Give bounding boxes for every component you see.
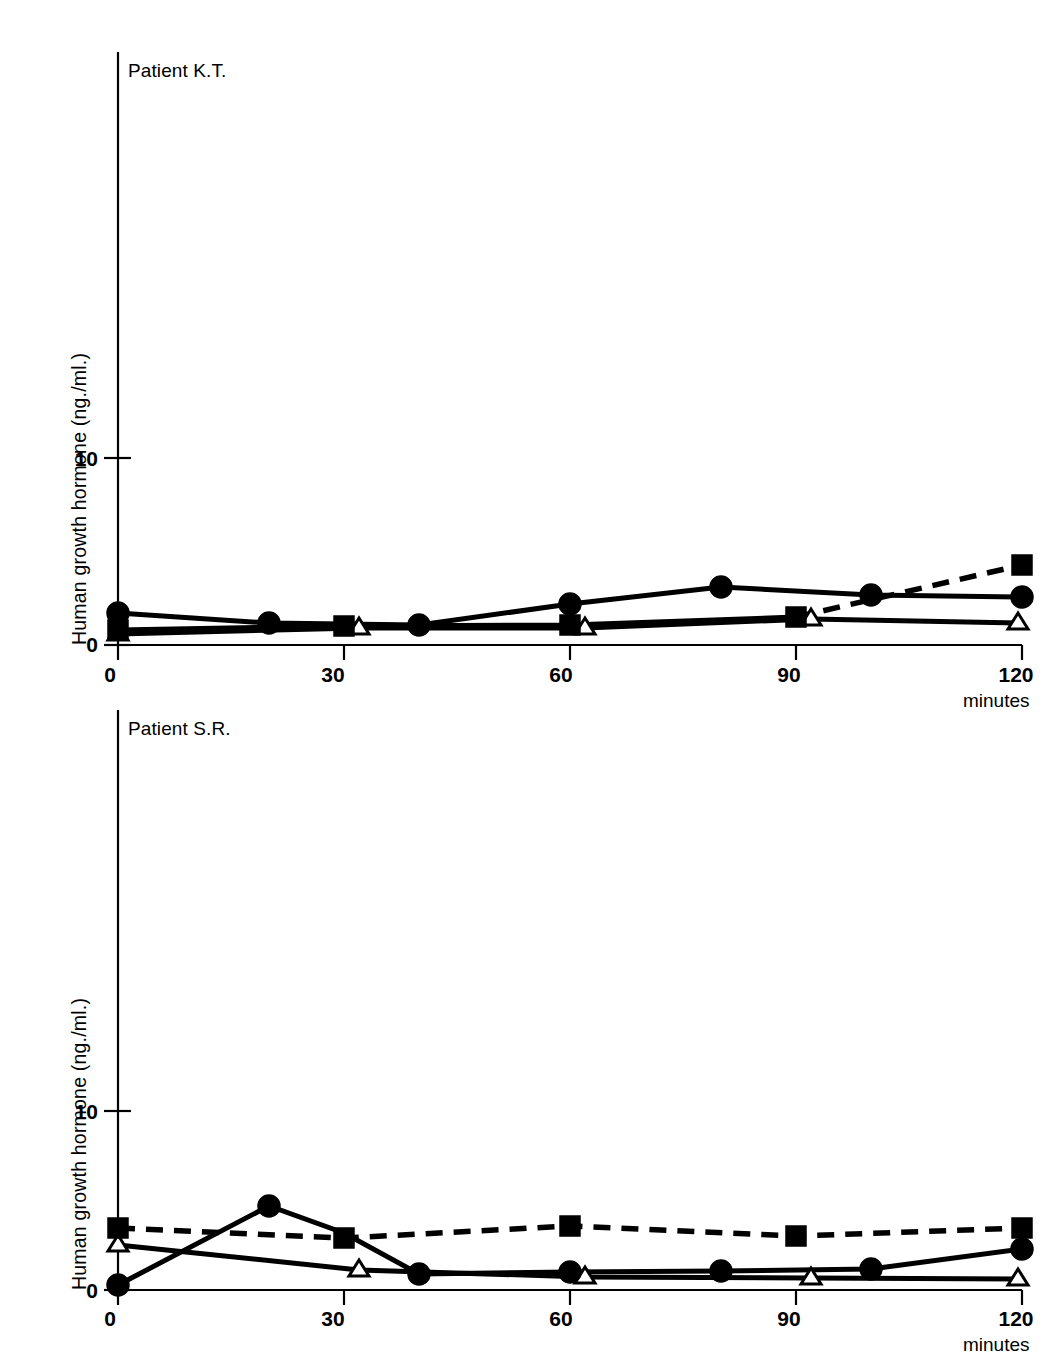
chart-panel-sr: Patient S.R. Human growth hormone (ng./m… [0, 670, 1047, 1348]
plot-area-sr [0, 670, 1047, 1348]
chart-panel-kt: Patient K.T. Human growth hormone (ng./m… [0, 0, 1047, 700]
plot-area-kt [0, 0, 1047, 700]
